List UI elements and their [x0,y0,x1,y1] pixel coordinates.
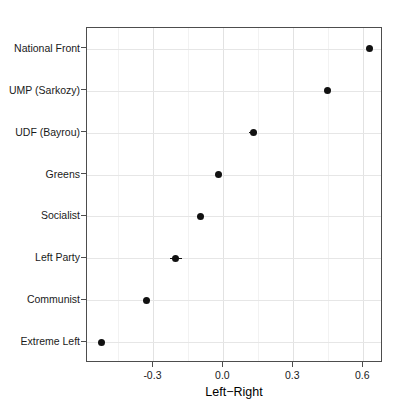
y-axis-tick-mark [81,299,86,300]
y-axis-tick-label: National Front [0,42,80,54]
x-axis-tick-label: 0.0 [215,369,230,381]
y-axis-tick-mark [81,257,86,258]
x-axis-title: Left−Right [86,385,382,399]
y-axis-tick-mark [81,89,86,90]
x-axis-tick-label: 0.6 [355,369,370,381]
y-axis-tick-mark [81,215,86,216]
y-axis-tick-label: Communist [0,293,80,305]
y-axis-tick-mark [81,47,86,48]
y-axis-tick-label: UDF (Bayrou) [0,126,80,138]
y-axis-tick-label: Left Party [0,251,80,263]
x-axis-tick-label: -0.3 [143,369,161,381]
y-axis-labels: National FrontUMP (Sarkozy)UDF (Bayrou)G… [0,27,406,362]
x-axis-tick-label: 0.3 [285,369,300,381]
y-axis-tick-label: Extreme Left [0,335,80,347]
x-axis-tick-mark [152,362,153,367]
y-axis-tick-label: Socialist [0,209,80,221]
x-axis-tick-mark [292,362,293,367]
y-axis-tick-mark [81,341,86,342]
y-axis-tick-mark [81,131,86,132]
y-axis-tick-label: Greens [0,168,80,180]
x-axis-tick-mark [362,362,363,367]
y-axis-tick-mark [81,173,86,174]
y-axis-tick-label: UMP (Sarkozy) [0,84,80,96]
x-axis-tick-mark [222,362,223,367]
dot-plot-chart: National FrontUMP (Sarkozy)UDF (Bayrou)G… [0,0,406,414]
